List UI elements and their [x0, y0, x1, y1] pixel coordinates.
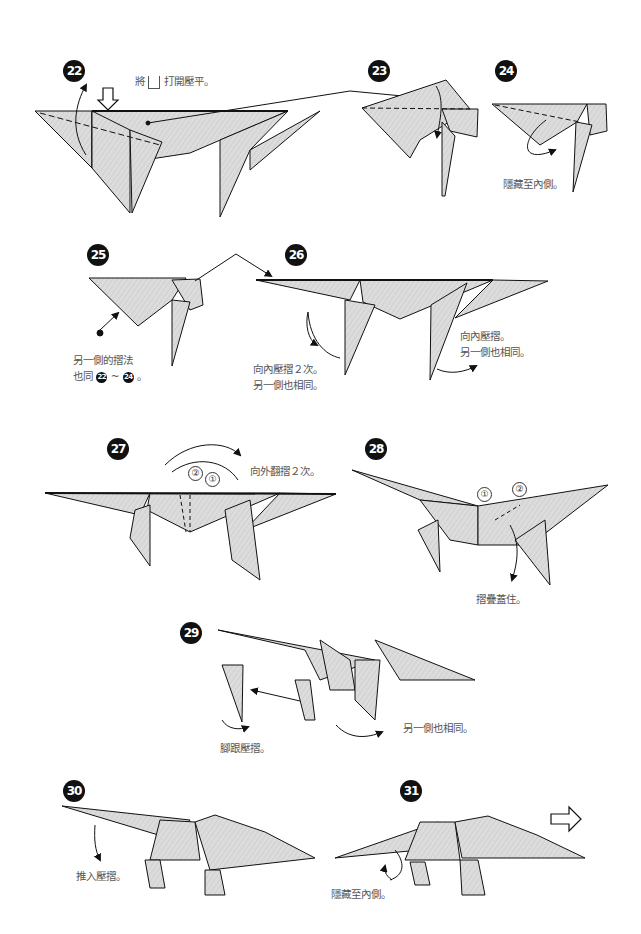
caption-text: 也同 — [73, 370, 93, 382]
step-badge-25: 25 — [87, 244, 109, 266]
step-badge-23: 23 — [368, 60, 390, 82]
caption-text: 。 — [137, 370, 147, 382]
step-31-diagram — [335, 807, 585, 895]
step-ref-badge-22: 22 — [96, 372, 107, 383]
caption-line-1: 向內壓摺２次。 — [253, 361, 323, 377]
step-26-caption-front-leg: 向內壓摺２次。 另一側也相同。 — [253, 361, 323, 393]
step-29-caption-other-side: 另一側也相同。 — [403, 720, 473, 736]
step-24-caption: 隱藏至內側。 — [503, 176, 563, 192]
step-28-caption: 摺疊蓋住。 — [476, 591, 526, 607]
caption-line-2: 另一側也相同。 — [460, 344, 530, 360]
caption-line-1: 另一側的摺法 — [73, 352, 147, 368]
caption-text: 打開壓平。 — [164, 75, 214, 87]
origami-instruction-page: 22 23 24 25 26 27 28 29 30 31 將 打開壓平。 隱藏… — [0, 0, 641, 934]
step-badge-30: 30 — [63, 780, 85, 802]
step-30-caption: 推入壓摺。 — [76, 868, 126, 884]
step-badge-27: 27 — [107, 438, 129, 460]
step-badge-26: 26 — [285, 244, 307, 266]
step-27-caption: 向外翻摺２次。 — [250, 463, 320, 479]
step-31-caption: 隱藏至內側。 — [331, 886, 391, 902]
caption-line-1: 向內壓摺。 — [460, 328, 530, 344]
step-25-caption: 另一側的摺法 也同 22 ~ 24 。 — [73, 352, 147, 384]
fold-marker-1: ① — [205, 472, 220, 487]
hollow-right-arrow-icon — [551, 807, 581, 831]
step-29-caption-heel: 腳跟壓摺。 — [220, 740, 270, 756]
step-22-diagram — [35, 85, 413, 217]
fold-marker-2: ② — [188, 466, 203, 481]
origami-diagrams — [0, 0, 641, 934]
hollow-down-arrow-icon — [148, 76, 160, 89]
caption-text: 將 — [135, 75, 145, 87]
step-ref-badge-24: 24 — [123, 372, 134, 383]
step-badge-22: 22 — [63, 60, 85, 82]
step-23-diagram — [362, 80, 478, 196]
caption-line-2: 另一側也相同。 — [253, 377, 323, 393]
caption-line-2: 也同 22 ~ 24 。 — [73, 368, 147, 384]
caption-text: ~ — [111, 370, 120, 382]
step-badge-31: 31 — [400, 780, 422, 802]
step-22-caption: 將 打開壓平。 — [135, 73, 214, 89]
step-25-diagram — [89, 254, 271, 366]
fold-marker-1: ① — [477, 487, 492, 502]
step-26-caption-back-leg: 向內壓摺。 另一側也相同。 — [460, 328, 530, 360]
step-badge-29: 29 — [180, 622, 202, 644]
step-badge-28: 28 — [365, 438, 387, 460]
step-badge-24: 24 — [495, 60, 517, 82]
fold-marker-2: ② — [512, 482, 527, 497]
